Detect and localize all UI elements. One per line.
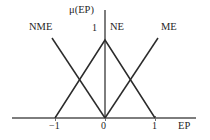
x-axis-title: EP xyxy=(178,121,190,132)
x-tick-label-one: 1 xyxy=(152,121,157,131)
x-tick-label-zero: 0 xyxy=(101,121,106,131)
series-label-me: ME xyxy=(161,22,177,33)
y-axis-title: μ(EP) xyxy=(69,5,94,16)
series-label-ne: NE xyxy=(110,22,124,33)
x-tick-label-minus-one: −1 xyxy=(49,121,60,131)
series-label-nme: NME xyxy=(29,22,52,33)
membership-function-chart: NME 1 NE ME μ(EP) −1 0 1 EP xyxy=(0,0,210,140)
series-line-me xyxy=(105,38,158,118)
y-tick-label-one: 1 xyxy=(92,23,97,33)
series-line-nme xyxy=(52,38,105,118)
